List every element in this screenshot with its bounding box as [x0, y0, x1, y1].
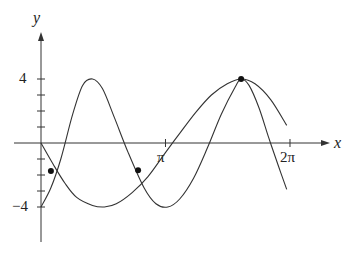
intersection-point [48, 168, 54, 174]
intersection-point [238, 76, 244, 82]
marked-points [48, 76, 244, 174]
x-axis-arrow-icon [321, 140, 330, 146]
y-tick-label-neg4: −4 [12, 198, 28, 214]
chart-canvas: x y 4 −4 π 2π [0, 0, 349, 254]
x-tick-label-2pi: 2π [280, 149, 296, 165]
y-axis-arrow-icon [38, 32, 44, 41]
intersection-point [135, 167, 141, 173]
y-tick-label-4: 4 [19, 70, 27, 86]
x-axis-label: x [333, 134, 341, 151]
y-axis-label: y [31, 9, 41, 27]
